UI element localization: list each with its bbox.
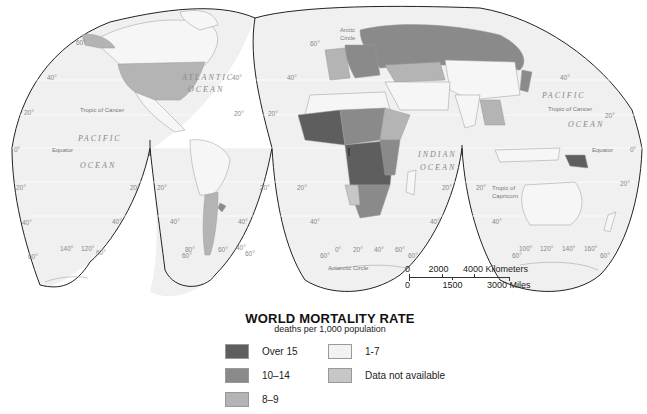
lat-20s-sa-e: 20° <box>260 184 270 191</box>
lat-60s-sa: 60° <box>182 252 192 259</box>
legend-item-10-14: 10–14 <box>225 368 290 383</box>
legend-label: Over 15 <box>262 346 298 357</box>
lat-40n-atl: 40° <box>232 74 242 81</box>
scale-km-0: 0 <box>405 264 410 274</box>
tropic-capricorn-label-1: Tropic of <box>492 185 515 191</box>
lat-40s-aus: 40° <box>492 218 502 225</box>
legend-swatch <box>225 344 249 359</box>
scale-km-labels: 0 2000 4000 Kilometers <box>405 264 528 274</box>
tropic-cancer-e-label: Tropic of Cancer <box>548 106 592 112</box>
lat-20s-ind: 20° <box>442 184 452 191</box>
lat-60n-af: 60° <box>310 40 320 47</box>
scale-tick <box>442 274 443 277</box>
lon-20e: 20° <box>353 246 363 253</box>
lon-60w: 60° <box>218 246 228 253</box>
lon-40w: 40° <box>236 244 246 251</box>
atlantic-label-2: OCEAN <box>188 85 224 94</box>
legend-swatch <box>328 368 352 383</box>
legend-label: 8–9 <box>262 394 279 405</box>
west-africa <box>298 110 345 145</box>
lat-40s-pac: 40° <box>112 218 122 225</box>
scale-mi-0: 0 <box>405 280 410 290</box>
lat-60s-e: 60° <box>600 252 610 259</box>
legend-item-over-15: Over 15 <box>225 344 298 359</box>
legend-swatch <box>225 368 249 383</box>
lat-40n-af: 40° <box>287 74 297 81</box>
lat-60s-sa-e: 60° <box>245 250 255 257</box>
lon-60e: 60° <box>395 246 405 253</box>
australia <box>522 182 582 225</box>
scale-mi-1500: 1500 <box>443 280 463 290</box>
lat-20s-aus: 20° <box>476 184 486 191</box>
legend-label: 1-7 <box>365 346 379 357</box>
lat-40n-w: 40° <box>47 74 57 81</box>
lon-120w: 120° <box>81 245 95 252</box>
lon-140e: 140° <box>562 245 576 252</box>
scale-km-2000: 2000 <box>429 264 449 274</box>
equator-w-label: Equator <box>52 147 73 153</box>
lat-60s-ind: 60° <box>408 252 418 259</box>
atlantic-label-1: ATLANTIC <box>181 73 234 82</box>
lat-60n-w: 60° <box>76 39 86 46</box>
lat-20s-e: 20° <box>620 180 630 187</box>
indonesia <box>495 148 560 162</box>
scale-mile-labels: 0 1500 3000 Miles <box>405 280 531 290</box>
scale-mi-3000: 3000 Miles <box>487 280 531 290</box>
equator-e-label: Equator <box>592 147 613 153</box>
lat-20s-sa: 20° <box>157 184 167 191</box>
pacific-w-label-1: PACIFIC <box>77 134 122 143</box>
scale-bar: 0 2000 4000 Kilometers 0 1500 3000 Miles <box>405 264 555 314</box>
lat-40n-e: 40° <box>560 74 570 81</box>
legend-swatch <box>225 392 249 407</box>
lon-0: 0° <box>335 246 342 253</box>
scale-line <box>409 277 509 278</box>
lat-20n-w: 20° <box>24 109 34 116</box>
legend-label: 10–14 <box>262 370 290 381</box>
legend-item-8-9: 8–9 <box>225 392 279 407</box>
arctic-circle-label-1: Arctic <box>340 27 355 33</box>
indian-label-2: OCEAN <box>420 163 456 172</box>
lat-0-w: 0° <box>14 146 21 153</box>
lat-20s-pac: 20° <box>130 184 140 191</box>
arctic-circle-label-2: Circle <box>340 35 356 41</box>
lon-100e: 100° <box>519 245 533 252</box>
lat-40s-w: 40° <box>22 219 32 226</box>
lat-60s-pac: 60° <box>96 249 106 256</box>
legend-swatch <box>328 344 352 359</box>
lat-20s-w: 20° <box>16 184 26 191</box>
lon-160e: 160° <box>584 245 598 252</box>
pacific-w-label-2: OCEAN <box>80 161 116 170</box>
lat-20s-af: 20° <box>297 184 307 191</box>
lon-120e: 120° <box>540 245 554 252</box>
legend-label: Data not available <box>365 370 445 381</box>
lat-60s-w: 60° <box>28 253 38 260</box>
legend-item-data-not-available: Data not available <box>328 368 445 383</box>
lon-80w: 80° <box>185 246 195 253</box>
lat-60s-aus: 60° <box>512 252 522 259</box>
lon-40e: 40° <box>374 246 384 253</box>
lon-140w: 140° <box>60 245 74 252</box>
pacific-e-label-2: OCEAN <box>568 120 604 129</box>
lat-40s-sa: 40° <box>170 218 180 225</box>
lat-20n-e: 20° <box>605 112 615 119</box>
legend-item-1-7: 1-7 <box>328 344 379 359</box>
scale-km-4000: 4000 Kilometers <box>463 264 528 274</box>
lat-20n-af: 20° <box>268 110 278 117</box>
lat-40s-sa-e: 40° <box>238 218 248 225</box>
antarctic-circle-label: Antarctic Circle <box>328 265 369 271</box>
pacific-e-label-1: PACIFIC <box>541 91 586 100</box>
scale-tick <box>474 274 475 277</box>
map-subtitle: deaths per 1,000 population <box>230 324 430 334</box>
lat-60s-af: 60° <box>320 252 330 259</box>
lat-20n-atl: 20° <box>234 110 244 117</box>
lat-0-e: 0° <box>630 146 637 153</box>
central-asia <box>385 62 445 82</box>
lat-40s-ind: 40° <box>430 218 440 225</box>
tropic-capricorn-label-2: Capricorn <box>492 193 518 199</box>
world-map: ATLANTIC OCEAN PACIFIC OCEAN INDIAN OCEA… <box>0 0 647 300</box>
sahel-central <box>340 108 385 145</box>
lat-40s-af: 40° <box>310 218 320 225</box>
indian-label-1: INDIAN <box>417 150 457 159</box>
tropic-cancer-w-label: Tropic of Cancer <box>80 107 124 113</box>
